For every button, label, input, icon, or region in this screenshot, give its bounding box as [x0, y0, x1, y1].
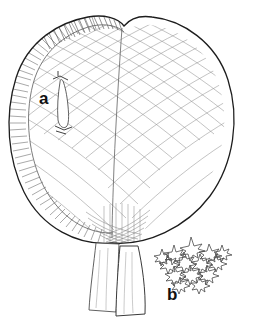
panel-a-body — [0, 0, 258, 316]
stalk-back-segment — [89, 243, 119, 312]
figure-root: a b — [0, 0, 258, 322]
panel-b-cell-cluster — [154, 237, 232, 294]
stalk-front-segment — [116, 246, 145, 316]
stalk — [89, 243, 145, 316]
figure-label-b: b — [167, 286, 177, 303]
figure-label-a: a — [39, 90, 48, 107]
scientific-illustration — [0, 0, 258, 322]
